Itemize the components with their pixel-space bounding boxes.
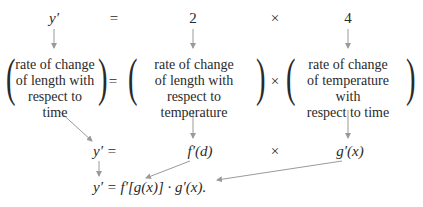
times-sign-2: ×	[271, 74, 279, 89]
block-length-time: rate of change of length with respect to…	[14, 57, 96, 121]
chain-rule-formula: y′ = f′[g(x)] · g′(x).	[93, 180, 206, 195]
equals-sign-2: =	[109, 74, 117, 89]
block1-line2: of length with	[14, 73, 96, 89]
block3-line1: rate of change	[294, 57, 402, 73]
y-prime-equals: y′ =	[93, 144, 117, 159]
block1-line3: respect to time	[14, 89, 96, 121]
block-temperature-time: rate of change of temperature with respe…	[294, 57, 402, 121]
times-sign-3: ×	[271, 144, 279, 159]
g-prime-x: g′(x)	[336, 144, 363, 159]
value-4: 4	[344, 11, 352, 26]
block2-line3: respect to temperature	[135, 89, 253, 121]
equals-sign: =	[110, 11, 118, 26]
block3-line3: respect to time	[294, 105, 402, 121]
times-sign: ×	[271, 11, 279, 26]
block3-line2: of temperature with	[294, 73, 402, 105]
block-length-temperature: rate of change of length with respect to…	[135, 57, 253, 121]
f-prime-d: f′(d)	[188, 144, 213, 159]
y-prime-label: y′	[49, 11, 59, 26]
arrow-g-to-formula	[217, 161, 342, 180]
block2-line2: of length with	[135, 73, 253, 89]
right-paren-1: )	[98, 52, 108, 104]
right-paren-3: )	[406, 52, 416, 104]
block1-line1: rate of change	[14, 57, 96, 73]
right-paren-2: )	[256, 52, 266, 104]
value-2: 2	[189, 11, 197, 26]
block2-line1: rate of change	[135, 57, 253, 73]
arrow-f-to-formula	[146, 161, 190, 178]
